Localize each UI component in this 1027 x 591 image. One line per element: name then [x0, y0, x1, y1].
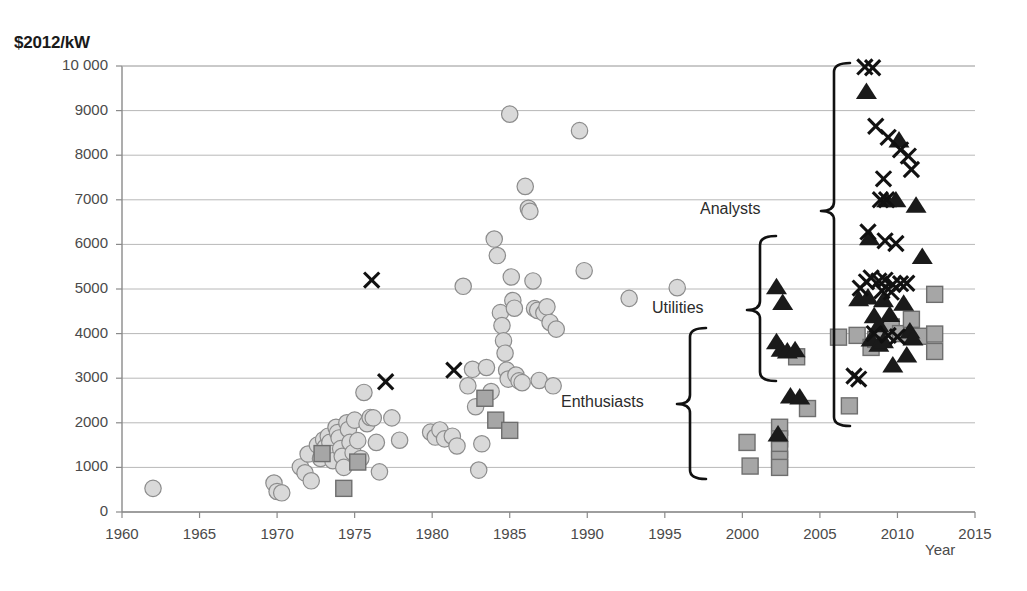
- x-tick-label: 1980: [402, 525, 462, 542]
- x-tick-label: 1995: [635, 525, 695, 542]
- data-point-circle: [486, 231, 502, 247]
- x-tick-label: 1990: [557, 525, 617, 542]
- data-point-triangle: [896, 346, 917, 362]
- data-point-circle: [497, 345, 513, 361]
- data-point-square: [350, 454, 366, 470]
- data-point-circle: [274, 485, 290, 501]
- data-point-circle: [384, 410, 400, 426]
- data-point-circle: [621, 290, 637, 306]
- data-point-circle: [455, 278, 471, 294]
- data-point-circle: [303, 473, 319, 489]
- data-point-square: [314, 446, 330, 462]
- data-point-square: [772, 459, 788, 475]
- data-point-circle: [669, 279, 685, 295]
- data-point-circle: [368, 434, 384, 450]
- data-point-square: [742, 458, 758, 474]
- y-tick-label: 4000: [18, 324, 108, 341]
- y-tick-label: 6000: [18, 234, 108, 251]
- data-point-square: [927, 326, 943, 342]
- annotation-label-utilities: Utilities: [652, 299, 704, 317]
- data-point-circle: [545, 378, 561, 394]
- annotation-bracket: [677, 328, 706, 479]
- data-point-square: [739, 434, 755, 450]
- y-tick-label: 5000: [18, 279, 108, 296]
- data-point-square: [336, 480, 352, 496]
- data-point-square: [502, 422, 518, 438]
- data-point-circle: [474, 436, 490, 452]
- data-point-circle: [571, 122, 587, 138]
- data-point-circle: [356, 384, 372, 400]
- y-tick-label: 8000: [18, 145, 108, 162]
- y-tick-label: 2000: [18, 413, 108, 430]
- data-point-circle: [576, 263, 592, 279]
- data-point-circle: [365, 410, 381, 426]
- data-point-circle: [371, 464, 387, 480]
- data-point-triangle: [772, 293, 793, 309]
- annotation-bracket: [747, 236, 776, 381]
- data-point-circle: [350, 432, 366, 448]
- data-point-square: [477, 390, 493, 406]
- y-tick-label: 3000: [18, 368, 108, 385]
- data-point-circle: [494, 317, 510, 333]
- x-tick-label: 1960: [92, 525, 152, 542]
- data-point-circle: [522, 203, 538, 219]
- data-point-square: [841, 398, 857, 414]
- y-tick-label: 1000: [18, 457, 108, 474]
- data-point-circle: [460, 378, 476, 394]
- data-point-circle: [514, 374, 530, 390]
- data-point-square: [927, 343, 943, 359]
- series-historical-costs: [145, 106, 686, 501]
- data-point-circle: [471, 462, 487, 478]
- data-point-triangle: [766, 278, 787, 294]
- data-point-circle: [539, 299, 555, 315]
- x-tick-label: 2005: [790, 525, 850, 542]
- plot-canvas: [0, 0, 1027, 591]
- annotation-label-enthusiasts: Enthusiasts: [561, 393, 644, 411]
- series-utility-estimates: [766, 82, 933, 441]
- data-point-triangle: [856, 82, 877, 98]
- data-point-circle: [506, 300, 522, 316]
- x-tick-label: 1970: [247, 525, 307, 542]
- y-tick-label: 10 000: [18, 56, 108, 73]
- data-point-circle: [489, 247, 505, 263]
- x-tick-label: 1985: [480, 525, 540, 542]
- data-point-circle: [478, 359, 494, 375]
- y-tick-label: 9000: [18, 101, 108, 118]
- annotation-label-analysts: Analysts: [700, 200, 760, 218]
- x-tick-label: 1975: [325, 525, 385, 542]
- data-point-circle: [548, 321, 564, 337]
- x-tick-label: 2010: [867, 525, 927, 542]
- data-point-circle: [525, 273, 541, 289]
- data-point-circle: [145, 480, 161, 496]
- data-point-triangle: [906, 196, 927, 212]
- data-point-circle: [517, 178, 533, 194]
- data-point-circle: [502, 106, 518, 122]
- data-point-circle: [449, 438, 465, 454]
- x-tick-label: 2000: [712, 525, 772, 542]
- scatter-chart: $2012/kW Year 01000200030004000500060007…: [0, 0, 1027, 591]
- x-tick-label: 1965: [170, 525, 230, 542]
- data-point-circle: [391, 432, 407, 448]
- series-enthusiast-estimates: [314, 286, 943, 496]
- data-point-circle: [503, 269, 519, 285]
- x-tick-label: 2015: [945, 525, 1005, 542]
- data-point-triangle: [912, 248, 933, 264]
- data-point-square: [927, 286, 943, 302]
- y-tick-label: 0: [18, 502, 108, 519]
- y-tick-label: 7000: [18, 190, 108, 207]
